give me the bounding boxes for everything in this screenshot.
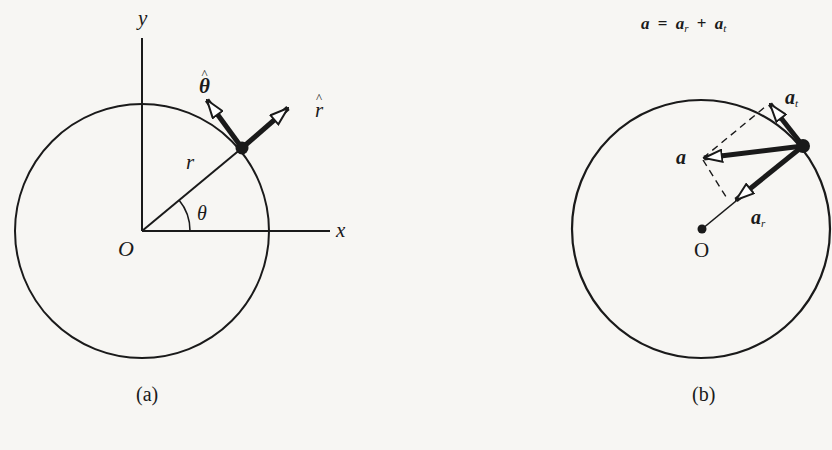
radius-label: r — [186, 152, 194, 173]
equation-term2: a — [715, 14, 724, 33]
unit-r-arrow — [242, 108, 288, 148]
origin-label-a: O — [118, 238, 134, 260]
figure-canvas: y x O r θ θ r (a) a = ar + at a ar at O … — [0, 0, 832, 450]
unit-r-label: r — [315, 100, 323, 121]
y-axis-label: y — [138, 8, 147, 29]
unit-theta-label: θ — [199, 76, 210, 97]
accel-label: a — [676, 147, 686, 167]
tangential-accel-subscript: t — [795, 97, 798, 109]
angle-label: θ — [197, 203, 207, 223]
angle-arc — [179, 200, 190, 231]
equation-plus: + — [697, 14, 707, 33]
accel-at-arrow — [770, 104, 803, 146]
unit-theta-arrow — [207, 100, 242, 148]
caption-b: (b) — [692, 384, 715, 404]
figure-b-drawing — [572, 100, 830, 358]
radial-accel-label: ar — [751, 207, 765, 229]
equation-lhs: a — [641, 14, 650, 33]
particle-b — [796, 139, 810, 153]
x-axis-label: x — [336, 220, 345, 241]
radial-accel-subscript: r — [761, 217, 765, 229]
radial-accel-symbol: a — [751, 206, 761, 228]
figure-a-drawing — [15, 38, 330, 358]
dashed-parallelogram-side — [703, 160, 728, 200]
tangential-accel-label: at — [785, 87, 798, 109]
caption-a: (a) — [136, 384, 158, 404]
equation-term1-sub: r — [684, 22, 688, 34]
equation-term1: a — [676, 14, 685, 33]
tangential-accel-symbol: a — [785, 86, 795, 108]
particle-a — [236, 142, 249, 155]
equation-term2-sub: t — [723, 22, 726, 34]
center-label-b: O — [694, 240, 709, 261]
equation: a = ar + at — [641, 15, 726, 34]
center-dot-b — [698, 225, 707, 234]
equation-equals: = — [658, 14, 668, 33]
